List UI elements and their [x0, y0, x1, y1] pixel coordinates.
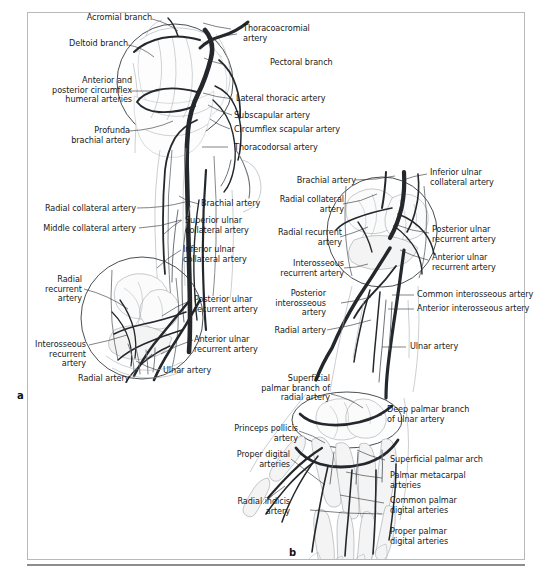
label-radial-collateral-artery-a: Radial collateral artery — [14, 204, 136, 214]
label-ulnar-artery-b: Ulnar artery — [410, 342, 490, 352]
label-acromial-branch: Acromial branch — [20, 13, 152, 23]
label-deep-palmar-branch: Deep palmar branch of ulnar artery — [387, 405, 493, 424]
label-deltoid-branch: Deltoid branch — [20, 39, 128, 49]
label-radial-artery-b: Radial artery — [254, 326, 326, 336]
panel-label-b: b — [289, 547, 296, 558]
label-thoracodorsal-artery: Thoracodorsal artery — [234, 143, 354, 153]
label-common-palmar-digital-arteries: Common palmar digital arteries — [390, 496, 482, 515]
label-anterior-interosseous-artery: Anterior interosseous artery — [417, 304, 543, 314]
label-brachial-artery-b: Brachial artery — [268, 176, 356, 186]
figure-page: Acromial branch Deltoid branch Anterior … — [0, 0, 546, 586]
label-inferior-ulnar-collateral-artery-b: Inferior ulnar collateral artery — [430, 168, 520, 187]
panel-label-a: a — [17, 390, 24, 401]
label-subscapular-artery: Subscapular artery — [234, 111, 344, 121]
label-superficial-palmar-arch: Superficial palmar arch — [390, 455, 502, 465]
label-palmar-metacarpal-arteries: Palmar metacarpal arteries — [390, 471, 486, 490]
label-profunda-brachial-artery: Profunda brachial artery — [30, 126, 130, 145]
label-anterior-ulnar-recurrent-artery-a: Anterior ulnar recurrent artery — [194, 335, 286, 354]
label-middle-collateral-artery: Middle collateral artery — [10, 224, 136, 234]
label-proper-digital-arteries: Proper digital arteries — [206, 450, 290, 469]
label-pectoral-branch: Pectoral branch — [270, 58, 360, 68]
label-radial-recurrent-artery-a: Radial recurrent artery — [20, 275, 82, 304]
label-superficial-palmar-branch: Superficial palmar branch of radial arte… — [222, 374, 330, 403]
label-thoracoacromial-artery: Thoracoacromial artery — [243, 24, 335, 43]
label-radialis-indicis-artery: Radial indicis artery — [216, 497, 290, 516]
label-radial-collateral-artery-b: Radial collateral artery — [264, 195, 344, 214]
label-circumflex-humeral-arteries: Anterior and posterior circumflex humera… — [12, 76, 132, 105]
label-radial-artery-a: Radial artery — [78, 374, 164, 384]
label-proper-palmar-digital-arteries: Proper palmar digital arteries — [390, 527, 480, 546]
label-posterior-ulnar-recurrent-artery-b: Posterior ulnar recurrent artery — [432, 225, 522, 244]
label-circumflex-scapular-artery: Circumflex scapular artery — [234, 125, 368, 135]
label-princeps-pollicis-artery: Princeps pollicis artery — [222, 424, 298, 443]
label-lateral-thoracic-artery: Lateral thoracic artery — [236, 94, 352, 104]
label-interosseous-recurrent-artery-a: Interosseous recurrent artery — [8, 340, 86, 369]
label-radial-recurrent-artery-b: Radial recurrent artery — [260, 228, 342, 247]
label-interosseous-recurrent-artery-b: Interosseous recurrent artery — [258, 259, 344, 278]
label-posterior-interosseous-artery: Posterior interosseous artery — [258, 289, 326, 318]
label-common-interosseous-artery: Common interosseous artery — [417, 290, 543, 300]
label-anterior-ulnar-recurrent-artery-b: Anterior ulnar recurrent artery — [432, 253, 522, 272]
